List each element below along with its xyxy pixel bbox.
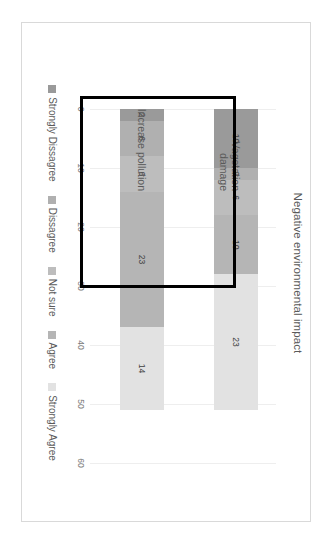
segment-strongly-agree[interactable]: 23	[214, 274, 258, 410]
legend-swatch-icon	[49, 196, 57, 204]
segment-value: 10	[232, 240, 241, 249]
xtick-label-0: 0	[76, 99, 86, 119]
legend-label: Agree	[47, 343, 58, 370]
legend-swatch-icon	[49, 85, 57, 93]
chart-figure: Negative environmental impact 10 2	[21, 22, 311, 522]
legend-item-strongly-dissagree[interactable]: Strongly Dissagree	[47, 85, 58, 181]
chart-title: Negative environmental impact	[292, 23, 304, 523]
legend-label: Not sure	[47, 279, 58, 317]
xtick-label-50: 50	[76, 394, 86, 414]
segment-value: 14	[138, 364, 147, 373]
legend-swatch-icon	[49, 267, 57, 275]
category-label-increase-pollution: Increase pollution	[136, 107, 148, 191]
xtick-label-60: 60	[76, 453, 86, 473]
plot-area: 10 2 6 10 23 2 6	[90, 109, 276, 475]
legend-item-agree[interactable]: Agree	[47, 331, 58, 370]
xtick-label-40: 40	[76, 335, 86, 355]
segment-value: 6	[232, 195, 241, 200]
legend-label: Strongly Agree	[47, 395, 58, 461]
segment-agree[interactable]: 23	[120, 192, 164, 328]
segment-value: 23	[138, 255, 147, 264]
xtick-label-30: 30	[76, 276, 86, 296]
rotated-figure-wrapper: Negative environmental impact 10 2	[21, 22, 311, 522]
segment-strongly-agree[interactable]: 14	[120, 327, 164, 410]
segment-value: 23	[232, 337, 241, 346]
legend-swatch-icon	[49, 383, 57, 391]
legend-item-dissagree[interactable]: Dissagree	[47, 196, 58, 253]
legend-item-strongly-agree[interactable]: Strongly Agree	[47, 383, 58, 461]
category-label-vagetation-damage: Vagetation damage	[218, 107, 242, 191]
chart-page: Negative environmental impact 10 2	[0, 0, 331, 544]
xtick-label-20: 20	[76, 217, 86, 237]
legend-label: Dissagree	[47, 208, 58, 253]
xtick-label-10: 10	[76, 158, 86, 178]
legend-item-not-sure[interactable]: Not sure	[47, 267, 58, 317]
chart-legend: Strongly Dissagree Dissagree Not sure Ag…	[47, 23, 58, 523]
segment-agree[interactable]: 10	[214, 215, 258, 274]
legend-label: Strongly Dissagree	[47, 97, 58, 181]
legend-swatch-icon	[49, 331, 57, 339]
